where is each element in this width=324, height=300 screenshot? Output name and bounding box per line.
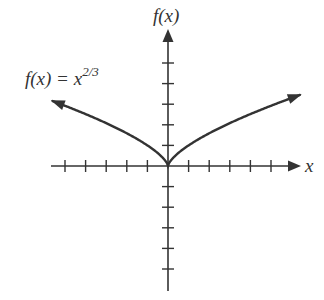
y-axis-label: f(x): [153, 5, 179, 27]
curve-left-arrow-icon: [51, 100, 66, 110]
x-axis-label: x: [304, 155, 314, 176]
function-label: f(x) = x2/3: [25, 64, 99, 90]
function-graph: f(x) x f(x) = x2/3: [0, 0, 324, 300]
function-curve: [53, 95, 300, 166]
x-axis-arrow-icon: [288, 161, 301, 172]
curve-right-arrow-icon: [287, 94, 302, 103]
y-axis-arrow-icon: [163, 29, 174, 42]
